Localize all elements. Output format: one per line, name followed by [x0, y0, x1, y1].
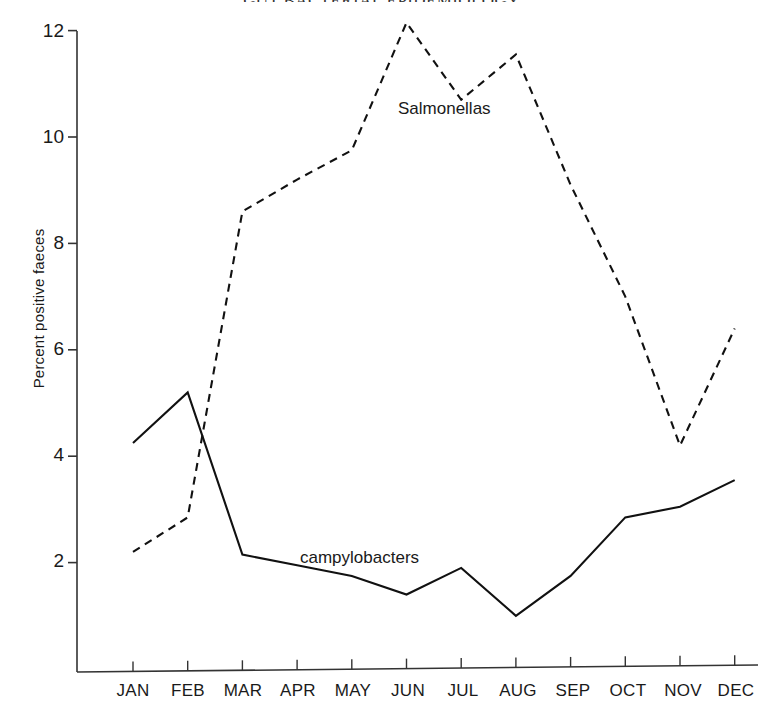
plot-area: [0, 0, 763, 728]
series-line-salmonellas: [133, 23, 735, 552]
x-axis-line: [77, 665, 758, 672]
axis-lines: [77, 31, 758, 672]
y-axis-ticks: [68, 31, 77, 563]
chart-figure: GUT BACTERIAL EPIDEMIOLOGY Percent posit…: [0, 0, 763, 728]
series-line-campylobacters: [133, 392, 735, 615]
